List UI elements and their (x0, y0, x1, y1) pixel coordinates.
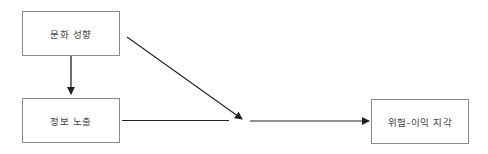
arrow-culture-moderation (127, 37, 242, 119)
node-information-exposure: 정보 노출 (22, 98, 120, 143)
node-label: 정보 노출 (50, 114, 92, 128)
node-cultural-orientation: 문화 성향 (22, 11, 120, 56)
node-label: 위험-이익 지각 (388, 115, 452, 129)
node-risk-benefit-perception: 위험-이익 지각 (371, 99, 469, 144)
node-label: 문화 성향 (50, 27, 92, 41)
